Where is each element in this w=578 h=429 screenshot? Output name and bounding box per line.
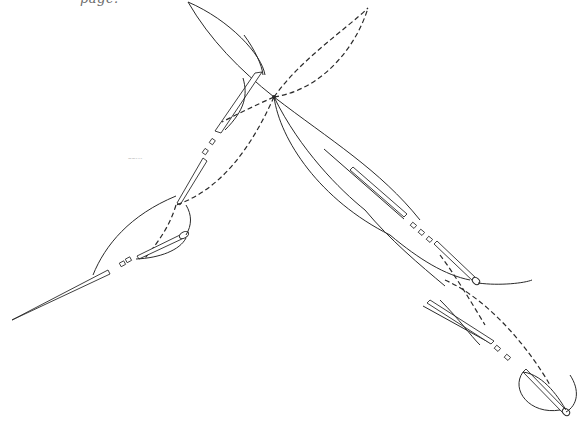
lower-right-needle-2	[423, 300, 511, 360]
upper-dashed-loop	[274, 8, 368, 97]
lower-left-needle	[12, 196, 176, 320]
bottom-right-needle	[519, 369, 576, 417]
needle-thread-diagram	[0, 0, 578, 429]
upper-left-needle	[177, 72, 262, 205]
dashed-thread-e	[445, 280, 550, 385]
upper-solid-loop	[188, 2, 274, 97]
dashed-thread-b	[176, 97, 274, 205]
right-solid-loops	[274, 97, 445, 286]
lower-right-needle-1	[390, 235, 532, 286]
